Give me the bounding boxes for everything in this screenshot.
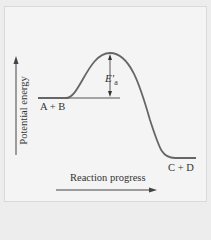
reactants-label: A + B [40, 101, 65, 112]
y-axis-label: Potential energy [18, 66, 29, 156]
activation-energy-label: E′a [105, 72, 118, 87]
products-label: C + D [168, 162, 194, 173]
x-axis-label: Reaction progress [70, 172, 146, 183]
